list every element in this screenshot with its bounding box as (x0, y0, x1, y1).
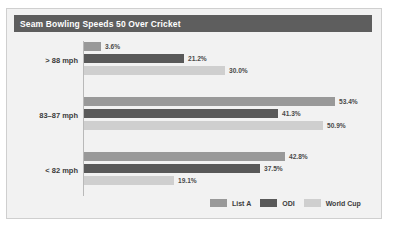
chart-card: Seam Bowling Speeds 50 Over Cricket > 88… (6, 8, 382, 219)
bar-value-label: 41.3% (282, 110, 301, 117)
legend-label: List A (232, 200, 251, 207)
bar-row: 3.6% (84, 42, 120, 51)
legend-label: World Cup (326, 200, 361, 207)
bar-world-cup (84, 176, 174, 185)
bar-row: 21.2% (84, 54, 207, 63)
bar-value-label: 3.6% (105, 43, 120, 50)
bar-row: 42.8% (84, 152, 308, 161)
bar-row: 53.4% (84, 97, 358, 106)
bar-value-label: 21.2% (188, 55, 207, 62)
bar-row: 50.9% (84, 121, 346, 130)
chart-plot-area: > 88 mph 3.6% 21.2% 30.0% 83–87 mph 53.4… (14, 39, 376, 211)
bar-value-label: 53.4% (339, 98, 358, 105)
bar-row: 19.1% (84, 176, 197, 185)
bar-list-a (84, 42, 101, 51)
bar-group: 83–87 mph 53.4% 41.3% 50.9% (14, 94, 376, 142)
legend-swatch-icon (260, 199, 277, 207)
bar-row: 37.5% (84, 164, 283, 173)
bar-odi (84, 54, 184, 63)
chart-title-bar: Seam Bowling Speeds 50 Over Cricket (14, 15, 372, 32)
bar-world-cup (84, 66, 225, 75)
bar-odi (84, 109, 278, 118)
chart-title: Seam Bowling Speeds 50 Over Cricket (14, 19, 181, 29)
legend-swatch-icon (210, 199, 227, 207)
bar-value-label: 30.0% (229, 67, 248, 74)
legend-item-world-cup[interactable]: World Cup (304, 199, 361, 207)
legend-swatch-icon (304, 199, 321, 207)
category-label: < 82 mph (14, 166, 78, 175)
bar-row: 41.3% (84, 109, 301, 118)
bar-value-label: 42.8% (289, 153, 308, 160)
legend-item-list-a[interactable]: List A (210, 199, 251, 207)
category-label: 83–87 mph (14, 111, 78, 120)
bar-group: < 82 mph 42.8% 37.5% 19.1% (14, 149, 376, 197)
legend-label: ODI (282, 200, 294, 207)
bar-group: > 88 mph 3.6% 21.2% 30.0% (14, 39, 376, 87)
chart-legend: List A ODI World Cup (210, 199, 361, 207)
category-label: > 88 mph (14, 56, 78, 65)
bar-list-a (84, 152, 285, 161)
bar-odi (84, 164, 260, 173)
bar-row: 30.0% (84, 66, 248, 75)
bar-list-a (84, 97, 335, 106)
bar-value-label: 19.1% (178, 177, 197, 184)
legend-item-odi[interactable]: ODI (260, 199, 294, 207)
bar-world-cup (84, 121, 323, 130)
bar-value-label: 37.5% (264, 165, 283, 172)
bar-value-label: 50.9% (327, 122, 346, 129)
